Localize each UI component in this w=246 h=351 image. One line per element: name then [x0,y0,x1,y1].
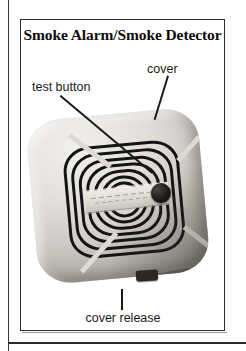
vent-grille-icon [62,139,181,255]
label-plate-icon [84,182,170,214]
page-margin-rule-left [8,0,9,351]
label-test-button: test button [32,80,90,94]
leader-line-cover-release [122,289,124,310]
smoke-detector-illustration [18,104,220,290]
page-margin-rule-bottom [8,342,246,344]
cover-shell-icon [25,107,211,286]
label-cover-release: cover release [78,311,168,325]
test-button-icon [150,182,172,204]
figure-page: Smoke Alarm/Smoke Detector [0,0,246,351]
label-cover: cover [147,62,178,76]
figure-frame-shadow [22,332,227,333]
figure-title: Smoke Alarm/Smoke Detector [20,26,225,44]
cover-release-tab-icon [136,269,159,282]
